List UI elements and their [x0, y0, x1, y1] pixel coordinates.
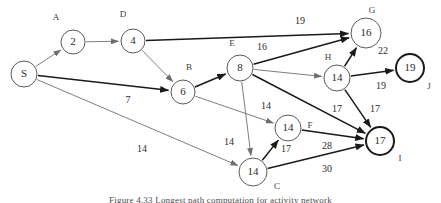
edge-S-to-A: [36, 50, 61, 66]
edge-weight-H-G: 22: [378, 45, 388, 56]
node-value-C: 14: [248, 165, 260, 177]
edge-H-to-J: [351, 70, 394, 76]
edge-weight-D-G: 19: [295, 15, 305, 26]
edge-H-to-I: [345, 90, 371, 128]
node-E[interactable]: 8: [227, 55, 253, 81]
node-B[interactable]: 6: [171, 80, 195, 104]
edge-E-to-H: [254, 69, 322, 76]
node-layer: SA2D4B6E8G16H14J19F14I17C14: [11, 5, 431, 191]
node-value-B: 6: [180, 85, 186, 97]
node-tag-H: H: [325, 52, 332, 62]
node-D[interactable]: 4: [121, 29, 145, 53]
node-value-H: 14: [332, 71, 344, 83]
node-value-F: 14: [283, 121, 295, 133]
edge-weight-E-G: 16: [257, 41, 267, 52]
node-value-D: 4: [130, 34, 136, 46]
node-tag-F: F: [307, 120, 312, 130]
node-tag-A: A: [53, 12, 60, 22]
node-A[interactable]: 2: [61, 30, 85, 54]
edge-weight-H-J: 19: [376, 80, 386, 91]
node-F[interactable]: 14: [275, 115, 301, 141]
node-value-S: S: [21, 67, 27, 79]
edge-D-to-B: [142, 50, 173, 81]
edge-E-to-G: [253, 38, 349, 65]
node-value-G: 16: [361, 26, 373, 38]
node-G[interactable]: 16: [351, 18, 381, 48]
node-S[interactable]: S: [11, 61, 37, 87]
node-tag-E: E: [229, 38, 235, 48]
edge-weight-E-I: 17: [332, 103, 342, 114]
node-value-A: 2: [70, 35, 76, 47]
edge-weight-S-B: 7: [126, 94, 131, 105]
node-tag-B: B: [186, 62, 192, 72]
figure-caption: Figure 4.33 Longest path computation for…: [0, 195, 441, 203]
node-H[interactable]: 14: [324, 65, 350, 91]
edge-E-to-C: [242, 82, 251, 156]
edge-weight-E-C: 14: [224, 136, 234, 147]
figure-container: SA2D4B6E8G16H14J19F14I17C14 197141416171…: [0, 0, 441, 203]
edge-weight-C-I: 30: [322, 163, 332, 174]
node-value-I: 17: [375, 134, 387, 146]
node-value-E: 8: [237, 61, 243, 73]
edge-F-to-I: [302, 130, 364, 139]
edge-weight-C-F: 17: [281, 143, 291, 154]
edge-weight-S-C: 14: [137, 143, 147, 154]
node-I[interactable]: 17: [366, 127, 394, 155]
node-tag-G: G: [369, 5, 376, 15]
node-J[interactable]: 19: [396, 54, 424, 82]
node-tag-D: D: [120, 9, 127, 19]
edge-D-to-G: [146, 34, 349, 41]
edge-C-to-F: [262, 140, 278, 160]
node-C[interactable]: 14: [239, 158, 267, 186]
node-tag-C: C: [274, 181, 280, 191]
edge-H-to-G: [345, 48, 357, 67]
edge-weight-F-I: 28: [322, 140, 332, 151]
edge-B-to-E: [195, 74, 226, 87]
edge-layer: [36, 34, 394, 169]
edge-weight-H-I: 17: [370, 103, 380, 114]
node-tag-J: J: [427, 81, 431, 91]
edge-weight-B-F: 14: [261, 100, 271, 111]
edge-A-to-D: [86, 41, 119, 42]
activity-network-diagram: SA2D4B6E8G16H14J19F14I17C14 197141416171…: [0, 0, 441, 203]
node-value-J: 19: [405, 61, 417, 73]
node-tag-I: I: [399, 153, 402, 163]
